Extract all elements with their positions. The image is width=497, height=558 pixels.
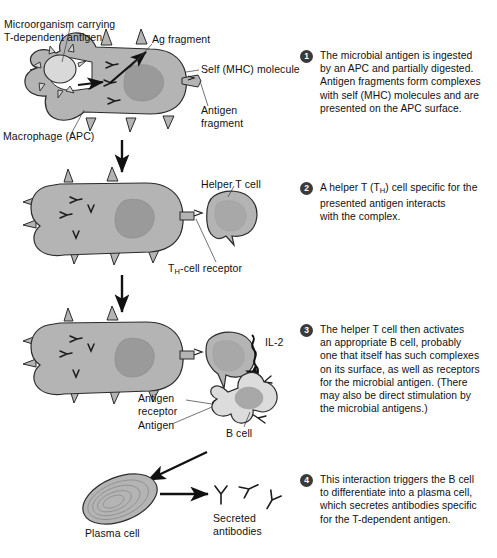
step-2: 2 A helper T (TH) cell specific for the … (300, 181, 496, 224)
label-b-cell: B cell (226, 427, 252, 440)
label-antigen: Antigen (138, 419, 174, 432)
step-1: 1 The microbial antigen is ingested by a… (300, 49, 496, 115)
label-antigen-fragment: Antigen fragment (201, 104, 243, 129)
label-self-mhc: Self (MHC) molecule (201, 63, 300, 76)
macrophage-body-panel2 (31, 183, 183, 256)
antibody-3 (262, 490, 281, 512)
label-macrophage: Macrophage (APC) (3, 130, 94, 143)
label-helper-t-cell: Helper T cell (201, 178, 261, 191)
macrophage-nucleus (124, 65, 164, 101)
step-2-number: 2 (300, 182, 313, 195)
step-1-text: The microbial antigen is ingested by an … (320, 49, 481, 115)
leader-self-mhc (186, 70, 199, 72)
leader-antigen-fragment (200, 81, 208, 106)
macrophage-body-panel3 (31, 322, 183, 395)
mhc-tcr-bridge-panel2 (180, 210, 202, 220)
step-1-number: 1 (300, 50, 313, 63)
b-cell-nucleus (235, 387, 263, 409)
label-microorganism: Microorganism carrying T-dependent antig… (4, 18, 115, 43)
step-4-text: This interaction triggers the B cell to … (320, 473, 477, 526)
arrow-step3-to-step4 (148, 452, 207, 480)
step-3-number: 3 (300, 324, 313, 337)
plasma-cell (76, 464, 165, 534)
helper-t-cell-nucleus (215, 201, 246, 232)
label-antigen-receptor: Antigen receptor (138, 392, 177, 417)
step-2-text: A helper T (TH) cell specific for the pr… (320, 181, 477, 224)
helper-t-cell-nucleus-panel3 (213, 341, 244, 372)
label-ag-fragment: Ag fragment (152, 33, 210, 46)
figure-root: Microorganism carrying T-dependent antig… (0, 0, 497, 558)
label-th-cell-receptor: TH-cell receptor (168, 262, 242, 279)
leader-antigen-receptor (186, 400, 212, 404)
secreted-antibodies (215, 479, 281, 511)
label-secreted-antibodies: Secreted antibodies (213, 512, 262, 537)
label-il2: IL-2 (265, 336, 284, 349)
mhc-tcr-bridge-panel3 (180, 349, 202, 359)
step-3-text: The helper T cell then activates an appr… (320, 323, 480, 415)
step-4: 4 This interaction triggers the B cell t… (300, 473, 496, 526)
step-4-number: 4 (300, 474, 313, 487)
antibody-1 (215, 486, 227, 504)
antibody-2 (239, 479, 260, 497)
label-plasma-cell: Plasma cell (85, 527, 140, 540)
b-cell-receptor-bottom (252, 414, 266, 423)
step-3: 3 The helper T cell then activates an ap… (300, 323, 496, 415)
leader-antigen (172, 407, 212, 424)
